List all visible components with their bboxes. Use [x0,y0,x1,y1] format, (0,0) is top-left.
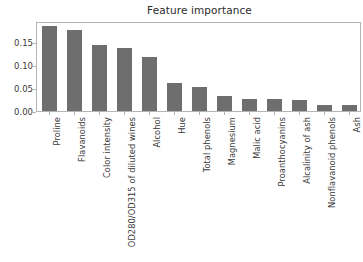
x-axis-tick-label: Flavanoids [77,117,87,162]
x-axis-tick-label: Malic acid [252,117,262,159]
x-axis-tick-mark [74,112,75,115]
bar [267,99,283,111]
bar [167,83,183,111]
x-axis-tick-mark [324,112,325,115]
bar [142,57,158,111]
x-axis-tick-label: Magnesium [227,117,237,165]
bar [242,99,258,111]
y-axis-tick-label: 0.05 [3,84,33,94]
x-axis-tick-mark [199,112,200,115]
x-axis-tick-label: Color intensity [102,117,112,178]
x-axis-tick-mark [349,112,350,115]
y-axis-tick-label: 0.10 [3,61,33,71]
x-axis-tick-mark [124,112,125,115]
x-axis-tick-label: OD280/OD315 of diluted wines [127,117,137,247]
bar [42,26,58,111]
x-axis-tick-mark [174,112,175,115]
x-axis-tick-label: Proanthocyanins [277,117,287,187]
x-axis-tick-mark [274,112,275,115]
bar [192,87,208,111]
bar [67,30,83,111]
x-axis-tick-mark [224,112,225,115]
x-axis-tick-label: Hue [177,117,187,134]
bars-layer [37,23,360,111]
bar [317,105,333,111]
bar [92,45,108,111]
plot-area [36,22,361,112]
x-axis-tick-label: Alcalinity of ash [302,117,312,184]
x-axis-tick-mark [149,112,150,115]
bar [117,48,133,111]
x-axis-tick-label: Total phenols [202,117,212,172]
y-axis-tick-label: 0.00 [3,107,33,117]
y-axis-tick-mark [32,112,36,113]
x-axis-tick-label: Nonflavanoid phenols [327,117,337,208]
bar [217,96,233,111]
x-axis-tick-mark [299,112,300,115]
bar [292,100,308,111]
x-axis-tick-label: Ash [352,117,362,132]
x-axis-tick-mark [49,112,50,115]
bar [342,105,358,111]
chart-title: Feature importance [36,4,363,16]
x-axis-tick-mark [249,112,250,115]
x-axis-tick-mark [99,112,100,115]
x-axis-tick-label: Alcohol [152,117,162,148]
figure-canvas: Feature importance 0.000.050.100.15 Prol… [0,0,363,262]
y-axis-tick-label: 0.15 [3,38,33,48]
x-axis-tick-label: Proline [52,117,62,146]
